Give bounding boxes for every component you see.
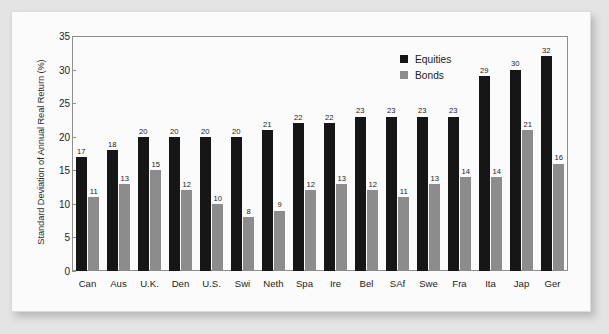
y-tick-label: 5 <box>40 232 70 243</box>
bar-equities: 20 <box>138 137 149 271</box>
bar-bonds: 12 <box>181 190 192 271</box>
bar-value-label: 23 <box>449 107 457 115</box>
y-tick-label: 30 <box>40 64 70 75</box>
x-tick-label: U.K. <box>134 278 165 289</box>
y-tick-label: 15 <box>40 165 70 176</box>
bar-group: 2015 <box>134 36 165 271</box>
bar-bonds: 21 <box>522 130 533 271</box>
bar-value-label: 20 <box>201 128 209 136</box>
bar-value-label: 11 <box>400 188 408 196</box>
x-tick-label: Fra <box>444 278 475 289</box>
bar-value-label: 30 <box>511 60 519 68</box>
y-tick-label: 0 <box>40 266 70 277</box>
bar-value-label: 21 <box>523 121 531 129</box>
bar-equities: 32 <box>541 56 552 271</box>
bar-group: 208 <box>227 36 258 271</box>
x-tick-label: Ger <box>537 278 568 289</box>
bar-value-label: 13 <box>430 175 438 183</box>
bar-value-label: 18 <box>108 141 116 149</box>
bar-bonds: 9 <box>274 211 285 271</box>
bar-bonds: 12 <box>305 190 316 271</box>
bar-value-label: 20 <box>232 128 240 136</box>
bar-value-label: 23 <box>387 107 395 115</box>
figure-root: the variation of returns across markets … <box>0 0 609 334</box>
bar-value-label: 9 <box>278 201 282 209</box>
x-tick-label: Jap <box>506 278 537 289</box>
x-tick-label: Ita <box>475 278 506 289</box>
bar-equities: 23 <box>386 117 397 271</box>
bar-value-label: 20 <box>139 128 147 136</box>
y-tick-label: 25 <box>40 98 70 109</box>
y-tick-label: 20 <box>40 131 70 142</box>
legend: EquitiesBonds <box>400 52 451 84</box>
legend-item: Equities <box>400 52 451 66</box>
bar-bonds: 11 <box>88 197 99 271</box>
bar-equities: 17 <box>76 157 87 271</box>
bar-equities: 20 <box>200 137 211 271</box>
bar-group: 2012 <box>165 36 196 271</box>
x-tick-label: U.S. <box>196 278 227 289</box>
x-tick-label: Swe <box>413 278 444 289</box>
bars-layer: 1711181320152012201020821922122213231223… <box>72 36 568 271</box>
bar-value-label: 12 <box>306 181 314 189</box>
bar-equities: 23 <box>417 117 428 271</box>
bar-group: 3216 <box>537 36 568 271</box>
bar-group: 1711 <box>72 36 103 271</box>
bar-bonds: 14 <box>491 177 502 271</box>
bar-equities: 30 <box>510 70 521 271</box>
chart-card: Standard Deviation of Annual Real Return… <box>11 11 591 312</box>
bar-value-label: 15 <box>151 161 159 169</box>
bar-equities: 29 <box>479 76 490 271</box>
bar-group: 2010 <box>196 36 227 271</box>
bar-value-label: 17 <box>77 148 85 156</box>
legend-swatch-icon <box>400 55 408 63</box>
bar-bonds: 16 <box>553 164 564 271</box>
bar-group: 2212 <box>289 36 320 271</box>
bar-equities: 22 <box>293 123 304 271</box>
bar-equities: 23 <box>448 117 459 271</box>
bar-bonds: 10 <box>212 204 223 271</box>
x-tick-label: Den <box>165 278 196 289</box>
bar-bonds: 11 <box>398 197 409 271</box>
bar-bonds: 13 <box>429 184 440 271</box>
bar-value-label: 16 <box>554 154 562 162</box>
bar-bonds: 13 <box>119 184 130 271</box>
bar-bonds: 14 <box>460 177 471 271</box>
bar-value-label: 22 <box>294 114 302 122</box>
bar-equities: 20 <box>169 137 180 271</box>
bar-group: 3021 <box>506 36 537 271</box>
x-tick-label: Bel <box>351 278 382 289</box>
bar-equities: 21 <box>262 130 273 271</box>
bar-value-label: 13 <box>120 175 128 183</box>
bar-equities: 20 <box>231 137 242 271</box>
bar-value-label: 11 <box>90 188 98 196</box>
bar-equities: 18 <box>107 150 118 271</box>
x-tick-label: Swi <box>227 278 258 289</box>
bar-value-label: 20 <box>170 128 178 136</box>
bar-value-label: 14 <box>461 168 469 176</box>
plot-wrap: Standard Deviation of Annual Real Return… <box>12 12 592 313</box>
legend-item: Bonds <box>400 68 451 82</box>
bar-value-label: 13 <box>337 175 345 183</box>
bar-value-label: 12 <box>182 181 190 189</box>
bar-value-label: 23 <box>356 107 364 115</box>
bar-value-label: 29 <box>480 67 488 75</box>
bar-value-label: 21 <box>263 121 271 129</box>
bar-value-label: 8 <box>247 208 251 216</box>
x-tick-label: Spa <box>289 278 320 289</box>
bar-value-label: 14 <box>492 168 500 176</box>
bar-value-label: 32 <box>542 47 550 55</box>
bar-bonds: 15 <box>150 170 161 271</box>
bar-equities: 22 <box>324 123 335 271</box>
y-tick-mark <box>72 271 76 272</box>
x-tick-label: SAf <box>382 278 413 289</box>
bar-value-label: 12 <box>368 181 376 189</box>
y-tick-label: 35 <box>40 31 70 42</box>
x-tick-label: Neth <box>258 278 289 289</box>
legend-label: Equities <box>415 54 451 65</box>
bar-bonds: 12 <box>367 190 378 271</box>
bar-value-label: 10 <box>213 195 221 203</box>
x-tick-label: Ire <box>320 278 351 289</box>
bar-value-label: 23 <box>418 107 426 115</box>
bar-group: 2213 <box>320 36 351 271</box>
